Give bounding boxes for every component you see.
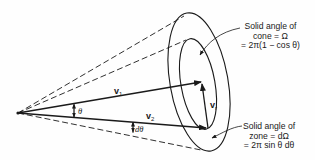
cone-leader-line [200,28,240,55]
apex-point [16,111,19,114]
solid-angle-diagram: v1 v2 vr θ dθ Solid angle of cone = Ω = … [0,0,315,160]
v1-vector [18,82,201,113]
cone-annotation: Solid angle of cone = Ω = 2π(1 − cos θ) [241,22,300,51]
inner-cone-ellipse [173,36,222,133]
v1-label: v1 [114,86,122,97]
theta-label: θ [78,106,82,116]
dtheta-label: dθ [135,124,143,134]
v2-label: v2 [146,111,154,122]
vr-vector [202,84,208,128]
vr-label: vr [210,100,217,111]
cone-dashed-lines [18,16,201,150]
zone-annotation: Solid angle of zone = dΩ = 2π sin θ dθ [243,122,295,151]
